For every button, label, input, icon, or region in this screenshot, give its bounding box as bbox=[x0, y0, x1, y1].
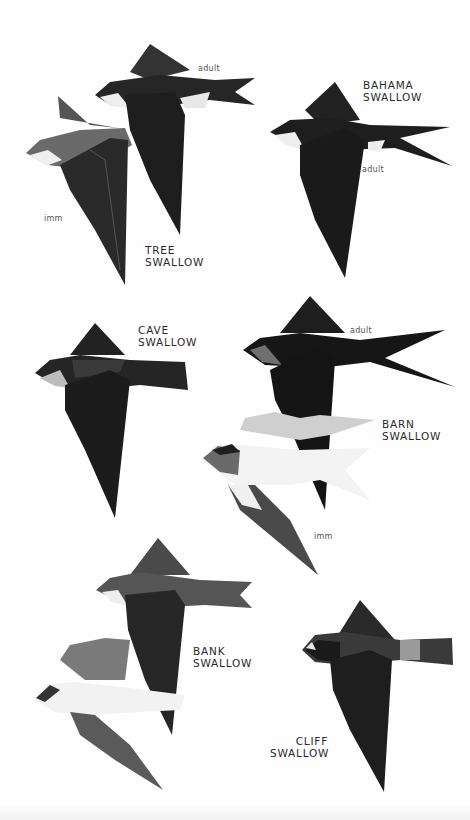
barn-swallow-imm-label: imm bbox=[314, 532, 333, 541]
tree-swallow-adult-label: adult bbox=[198, 64, 220, 73]
bahama-swallow-adult-label: adult bbox=[362, 165, 384, 174]
tree-swallow-imm-label: imm bbox=[44, 214, 63, 223]
illustration-plate: adult imm TREE SWALLOW BAHAMA SWALLOW ad… bbox=[0, 0, 470, 820]
cliff-swallow-title: CLIFF SWALLOW bbox=[270, 735, 328, 759]
cave-swallow-title: CAVE SWALLOW bbox=[138, 324, 197, 348]
barn-swallow-adult-label: adult bbox=[350, 326, 372, 335]
page-bottom-edge bbox=[0, 805, 470, 820]
bahama-swallow-title: BAHAMA SWALLOW bbox=[363, 79, 422, 103]
bank-swallow-title: BANK SWALLOW bbox=[193, 645, 252, 669]
cliff-swallow-illustration bbox=[0, 0, 470, 820]
tree-swallow-title: TREE SWALLOW bbox=[145, 244, 204, 268]
barn-swallow-title: BARN SWALLOW bbox=[382, 418, 441, 442]
